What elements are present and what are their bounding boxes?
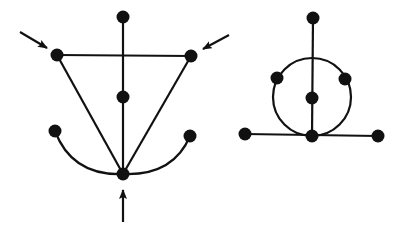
right-graph: [239, 12, 385, 143]
node-circle-left: [271, 72, 284, 85]
node-center: [117, 91, 130, 104]
node-lower-right: [184, 130, 197, 143]
node-upper-right: [185, 50, 198, 63]
node-circle-right: [339, 73, 352, 86]
node-far-right: [372, 130, 385, 143]
arrow-upper-left-icon: [20, 32, 47, 48]
graph-diagram: [0, 0, 405, 233]
edge: [57, 55, 123, 174]
node-bottom: [306, 130, 319, 143]
node-bottom: [117, 168, 130, 181]
edge: [312, 18, 313, 136]
curved-edge: [55, 131, 123, 174]
node-top: [307, 12, 320, 25]
node-lower-left: [49, 125, 62, 138]
left-graph: [20, 11, 229, 223]
edge: [57, 55, 191, 56]
node-center: [306, 92, 319, 105]
arrow-upper-right-icon: [203, 35, 229, 49]
edge: [123, 56, 191, 174]
node-top: [117, 11, 130, 24]
node-far-left: [239, 128, 252, 141]
node-upper-left: [51, 49, 64, 62]
